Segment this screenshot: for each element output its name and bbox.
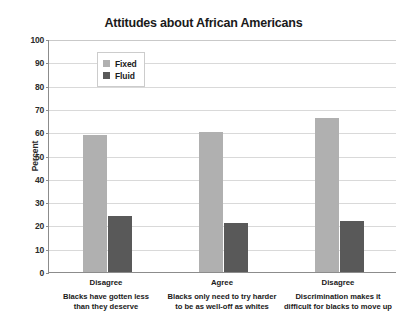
bar-group-2 — [199, 40, 248, 272]
legend-swatch-fixed — [103, 60, 110, 67]
legend-label-fluid: Fluid — [115, 71, 135, 81]
bar-fixed-1[interactable] — [83, 135, 107, 272]
y-tick-label-70: 70 — [4, 105, 44, 115]
legend-label-fixed: Fixed — [115, 59, 137, 69]
y-tick-mark-60 — [46, 133, 49, 134]
category-head-3: Disagree — [270, 278, 406, 289]
y-tick-mark-30 — [46, 203, 49, 204]
y-tick-label-100: 100 — [4, 35, 44, 45]
y-tick-mark-80 — [46, 87, 49, 88]
y-tick-label-60: 60 — [4, 128, 44, 138]
category-label-3: DisagreeDiscrimination makes itdifficult… — [270, 278, 406, 312]
legend-item-fixed[interactable]: Fixed — [103, 58, 137, 69]
bar-fixed-2[interactable] — [199, 132, 223, 272]
y-tick-label-0: 0 — [4, 268, 44, 278]
y-tick-mark-70 — [46, 110, 49, 111]
y-tick-mark-10 — [46, 250, 49, 251]
y-tick-mark-0 — [46, 273, 49, 274]
category-sub-line2-3: difficult for blacks to move up — [270, 302, 406, 312]
legend-swatch-fluid — [103, 72, 110, 79]
chart-title: Attitudes about African Americans — [0, 16, 407, 30]
y-tick-mark-90 — [46, 63, 49, 64]
category-sub-line1-3: Discrimination makes it — [270, 292, 406, 302]
legend-item-fluid[interactable]: Fluid — [103, 70, 137, 81]
bar-chart: Attitudes about African Americans Percen… — [0, 0, 407, 333]
y-tick-label-50: 50 — [4, 152, 44, 162]
bar-fluid-3[interactable] — [340, 221, 364, 272]
bar-fluid-2[interactable] — [224, 223, 248, 272]
y-tick-mark-20 — [46, 226, 49, 227]
y-tick-mark-50 — [46, 157, 49, 158]
y-tick-label-10: 10 — [4, 245, 44, 255]
y-tick-label-30: 30 — [4, 198, 44, 208]
bar-fluid-1[interactable] — [108, 216, 132, 272]
y-tick-label-40: 40 — [4, 175, 44, 185]
bar-fixed-3[interactable] — [315, 118, 339, 272]
y-tick-label-20: 20 — [4, 221, 44, 231]
y-tick-label-90: 90 — [4, 58, 44, 68]
y-tick-mark-40 — [46, 180, 49, 181]
chart-legend: FixedFluid — [97, 52, 145, 87]
y-tick-label-80: 80 — [4, 82, 44, 92]
bar-group-3 — [315, 40, 364, 272]
y-tick-mark-100 — [46, 40, 49, 41]
